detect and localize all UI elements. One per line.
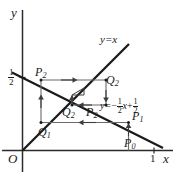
point-label-p0: P0	[124, 137, 136, 151]
x-axis-label: x	[163, 152, 169, 165]
cobweb-diagram-canvas	[0, 0, 175, 174]
point-label-p1: P1	[132, 110, 144, 124]
point-label-p2-left: P2	[35, 66, 47, 80]
p2left-sub: 2	[43, 71, 47, 80]
y-tick-half-label: 1 2	[8, 68, 14, 87]
p1-base: P	[132, 109, 139, 123]
point-label-q2-right: Q2	[106, 74, 119, 88]
point-p1-dot	[127, 121, 130, 124]
p2inner-base: P	[86, 105, 93, 119]
map-eq-prefix: y=	[100, 100, 111, 111]
point-q1-dot	[40, 121, 43, 124]
point-label-p2-inner: P2	[86, 106, 98, 120]
p2left-base: P	[35, 65, 42, 79]
p0-base: P	[124, 136, 131, 150]
q2inner-sub: 2	[71, 111, 75, 120]
x-tick-one-label: 1	[150, 153, 156, 164]
y-axis-label: y	[11, 6, 17, 19]
point-label-q1: Q1	[38, 126, 51, 140]
half-denominator: 2	[8, 78, 14, 87]
p2inner-sub: 2	[94, 111, 98, 120]
p1-sub: 1	[140, 115, 144, 124]
q1-sub: 1	[47, 131, 51, 140]
origin-label: O	[8, 152, 17, 165]
cobweb-diagram-figure: y x O 1 1 2 y=x y=−12x+12 P0 P1 Q1 P2 Q2…	[0, 0, 175, 174]
q2right-base: Q	[106, 73, 115, 87]
p0-sub: 0	[132, 142, 136, 151]
q2right-sub: 2	[115, 79, 119, 88]
point-label-q2-inner: Q2	[62, 106, 75, 120]
q1-base: Q	[38, 125, 47, 139]
identity-line-label: y=x	[100, 34, 117, 45]
q2inner-base: Q	[62, 105, 71, 119]
